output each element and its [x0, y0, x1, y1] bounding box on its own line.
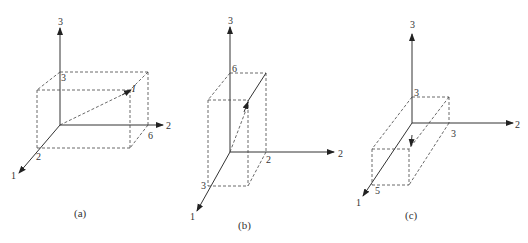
vector-arrow-icon	[411, 135, 412, 146]
panel-a: 3 2 1 3 6 2 I (a)	[11, 16, 171, 220]
box-label-x2: 3	[451, 128, 456, 139]
panel-c: 3 2 1 3 3 5 (c)	[356, 19, 520, 222]
edge-line	[248, 73, 266, 101]
box-label-x3: 3	[414, 87, 419, 98]
vector-line	[60, 91, 130, 125]
vector-line	[230, 110, 246, 152]
vector-label: I	[131, 83, 136, 94]
axis-1-label: 1	[190, 211, 195, 222]
axis-1-label: 1	[11, 170, 16, 181]
box-label-x3: 6	[232, 63, 237, 74]
dashed-box	[208, 73, 266, 186]
dashed-box	[372, 97, 449, 185]
box-label-x1: 5	[375, 185, 380, 196]
box-label-x3: 3	[61, 72, 66, 83]
axis-2-label: 2	[166, 120, 171, 131]
box-label-x2: 2	[266, 154, 271, 165]
caption-c: (c)	[405, 209, 418, 222]
axis-3-label: 3	[228, 15, 233, 26]
axis-1-label: 1	[356, 197, 361, 208]
axis-2-label: 2	[515, 119, 520, 130]
figure-canvas: 3 2 1 3 6 2 I (a) 3 2 1 6 2 3 (b)	[0, 0, 528, 243]
box-label-x1: 2	[36, 151, 41, 162]
caption-a: (a)	[74, 207, 87, 220]
axis-3-label: 3	[58, 16, 63, 27]
axis-3-label: 3	[410, 19, 415, 30]
axis-1-arrow-icon	[19, 125, 60, 173]
panel-b: 3 2 1 6 2 3 (b)	[190, 15, 343, 232]
vector-arrow-icon	[244, 102, 248, 112]
axis-2-label: 2	[338, 148, 343, 159]
caption-b: (b)	[238, 219, 251, 232]
box-label-x1: 3	[201, 180, 206, 191]
box-label-x2: 6	[148, 130, 153, 141]
